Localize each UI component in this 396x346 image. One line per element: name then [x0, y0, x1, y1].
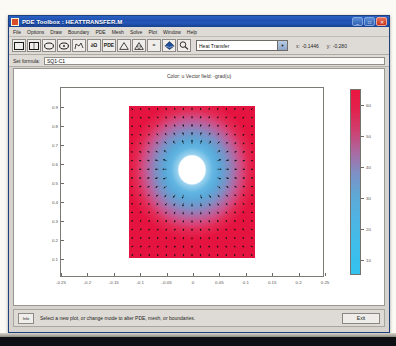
y-coordinate-label: y: [327, 43, 331, 49]
field-arrow [200, 124, 201, 127]
field-arrow [164, 186, 167, 188]
field-arrow [217, 125, 218, 127]
x-tick [140, 273, 141, 276]
menu-item-boundary[interactable]: Boundary [68, 29, 89, 35]
field-arrow [209, 116, 210, 118]
refine-mesh-button[interactable] [132, 39, 146, 52]
field-arrow [131, 229, 133, 231]
field-arrow [148, 125, 150, 127]
field-arrow [149, 237, 150, 239]
field-arrow [209, 237, 210, 239]
field-arrow [166, 254, 167, 256]
x-tick [299, 273, 300, 276]
field-arrow [243, 117, 245, 119]
colorbar-tick-label: 40 [366, 164, 371, 169]
zoom-tool-button[interactable] [177, 39, 191, 52]
menu-item-solve[interactable]: Solve [130, 29, 143, 35]
field-arrow [243, 126, 245, 127]
field-arrow [166, 220, 167, 222]
field-arrow [131, 152, 133, 153]
menu-item-file[interactable]: File [13, 29, 21, 35]
field-arrow [166, 237, 167, 239]
field-arrow [217, 186, 220, 188]
draw-rectangle-button[interactable] [12, 39, 26, 52]
field-arrow [131, 126, 133, 127]
field-arrow [217, 160, 221, 161]
exit-button[interactable]: Exit [342, 313, 380, 324]
draw-rectangle-centered-button[interactable] [27, 39, 41, 52]
minimize-button[interactable]: _ [352, 17, 363, 26]
menu-item-mesh[interactable]: Mesh [112, 29, 124, 35]
mesh-mode-button[interactable] [117, 39, 131, 52]
field-arrow [166, 229, 167, 231]
field-arrow [157, 117, 158, 119]
screenshot-canvas: PDE Toolbox : HEATTRANSFER.M _ □ ✕ File … [0, 0, 396, 346]
field-arrow [140, 229, 141, 231]
chevron-down-icon[interactable]: ▼ [277, 41, 287, 50]
maximize-button[interactable]: □ [364, 17, 375, 26]
field-arrow [251, 229, 253, 231]
menu-item-options[interactable]: Options [27, 29, 44, 35]
field-arrow [157, 254, 158, 256]
y-tick [61, 259, 64, 260]
field-arrow [139, 195, 141, 196]
plot-axes[interactable]: -0.25-0.2-0.15-0.1-0.0500.050.10.150.20.… [60, 87, 324, 277]
y-tick [61, 221, 64, 222]
field-arrow [132, 254, 133, 256]
rectangle-icon [14, 42, 24, 50]
y-tick-label: 0.9 [45, 105, 58, 110]
x-tick-label: -0.25 [56, 280, 66, 285]
colorbar-tick [361, 105, 364, 106]
field-arrow [243, 212, 245, 213]
x-tick [114, 273, 115, 276]
menu-item-draw[interactable]: Draw [50, 29, 62, 35]
field-arrow [148, 195, 150, 196]
formula-label: Set formula: [13, 58, 40, 64]
field-arrow [251, 246, 252, 248]
draw-ellipse-centered-button[interactable] [57, 39, 71, 52]
field-arrow [155, 160, 158, 161]
field-arrow [183, 212, 184, 215]
x-tick [325, 273, 326, 276]
colorbar-tick-label: 30 [366, 195, 371, 200]
field-arrow [234, 178, 237, 179]
field-arrow [200, 195, 201, 199]
pde-app-icon [11, 18, 19, 26]
info-button[interactable]: Info [18, 313, 34, 324]
application-select[interactable]: Heat Transfer ▼ [196, 40, 288, 51]
pde-mode-button[interactable]: PDE [102, 39, 116, 52]
field-arrow [209, 203, 210, 206]
solve-pde-button[interactable]: = [147, 39, 161, 52]
field-arrow [226, 142, 228, 144]
y-tick-label: 0.2 [45, 238, 58, 243]
menu-item-help[interactable]: Help [187, 29, 197, 35]
field-arrow [226, 151, 229, 152]
field-arrow [131, 134, 133, 135]
field-arrow [226, 220, 227, 222]
x-tick [167, 273, 168, 276]
field-arrow [234, 134, 236, 135]
close-button[interactable]: ✕ [376, 17, 387, 26]
field-arrow [226, 134, 228, 136]
equals-icon: = [153, 43, 156, 48]
draw-ellipse-button[interactable] [42, 39, 56, 52]
x-tick-label: 0.15 [268, 280, 277, 285]
x-coordinate-readout: x: -0.1446 [296, 43, 319, 49]
field-arrow [157, 212, 158, 214]
plot-solution-button[interactable] [162, 39, 176, 52]
boundary-mode-button[interactable]: ∂Ω [87, 39, 101, 52]
field-arrow [226, 160, 229, 161]
field-arrow [209, 229, 210, 231]
field-arrow [209, 125, 210, 127]
menu-item-plot[interactable]: Plot [148, 29, 157, 35]
draw-polygon-button[interactable] [72, 39, 86, 52]
field-arrow [157, 246, 158, 248]
menu-item-pde[interactable]: PDE [95, 29, 105, 35]
field-arrow [217, 246, 218, 248]
formula-input[interactable]: SQ1-C1 [44, 57, 385, 65]
field-arrow [147, 186, 149, 187]
field-arrow [234, 229, 235, 231]
chevron-down-glyph: ▼ [281, 44, 285, 48]
menu-item-window[interactable]: Window [163, 29, 181, 35]
field-arrow [217, 142, 219, 144]
